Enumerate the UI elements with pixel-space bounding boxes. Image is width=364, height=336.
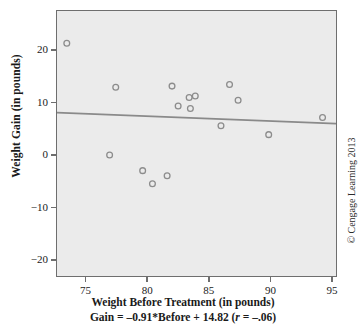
data-point — [169, 83, 175, 89]
y-axis-title: Weight Gain (in pounds) — [10, 16, 22, 216]
y-tick-mark — [51, 259, 56, 261]
x-tick-mark — [146, 277, 148, 282]
data-point — [140, 168, 146, 174]
data-point — [227, 82, 233, 88]
data-point — [150, 181, 156, 187]
y-tick-mark — [51, 49, 56, 51]
x-tick-label: 85 — [189, 285, 229, 296]
data-point — [107, 152, 113, 158]
data-point — [266, 132, 272, 138]
y-tick-mark — [51, 154, 56, 156]
equation-tail: = –.06) — [240, 311, 276, 323]
y-tick-label: 10 — [18, 97, 48, 108]
data-point — [235, 97, 241, 103]
data-point — [164, 173, 170, 179]
plot-canvas — [57, 11, 336, 276]
scatter-plot-figure: 20100−10−20 7580859095 Weight Gain (in p… — [0, 0, 364, 336]
plot-area — [56, 10, 337, 277]
data-point — [113, 84, 119, 90]
data-point — [218, 123, 224, 129]
data-point — [320, 115, 326, 121]
data-point — [186, 95, 192, 101]
y-tick-label: 20 — [18, 44, 48, 55]
equation-lead: Gain = –0.91*Before + 14.82 ( — [90, 311, 235, 323]
x-tick-mark — [85, 277, 87, 282]
x-tick-mark — [270, 277, 272, 282]
y-tick-label: 0 — [18, 149, 48, 160]
copyright-notice: © Cengage Learning 2013 — [346, 116, 357, 266]
x-tick-label: 75 — [66, 285, 106, 296]
data-point — [175, 103, 181, 109]
y-tick-mark — [51, 102, 56, 104]
regression-equation-annotation: Gain = –0.91*Before + 14.82 (r = –.06) — [30, 311, 336, 323]
data-point — [64, 40, 70, 46]
data-point — [192, 93, 198, 99]
y-tick-label: −20 — [18, 254, 48, 265]
x-tick-mark — [208, 277, 210, 282]
data-point — [188, 106, 194, 112]
x-tick-mark — [331, 277, 333, 282]
y-tick-mark — [51, 207, 56, 209]
x-tick-label: 95 — [312, 285, 352, 296]
regression-line — [57, 113, 336, 124]
x-axis-title: Weight Before Treatment (in pounds) — [30, 296, 336, 308]
x-tick-label: 90 — [250, 285, 290, 296]
y-tick-label: −10 — [18, 202, 48, 213]
x-tick-label: 80 — [127, 285, 167, 296]
